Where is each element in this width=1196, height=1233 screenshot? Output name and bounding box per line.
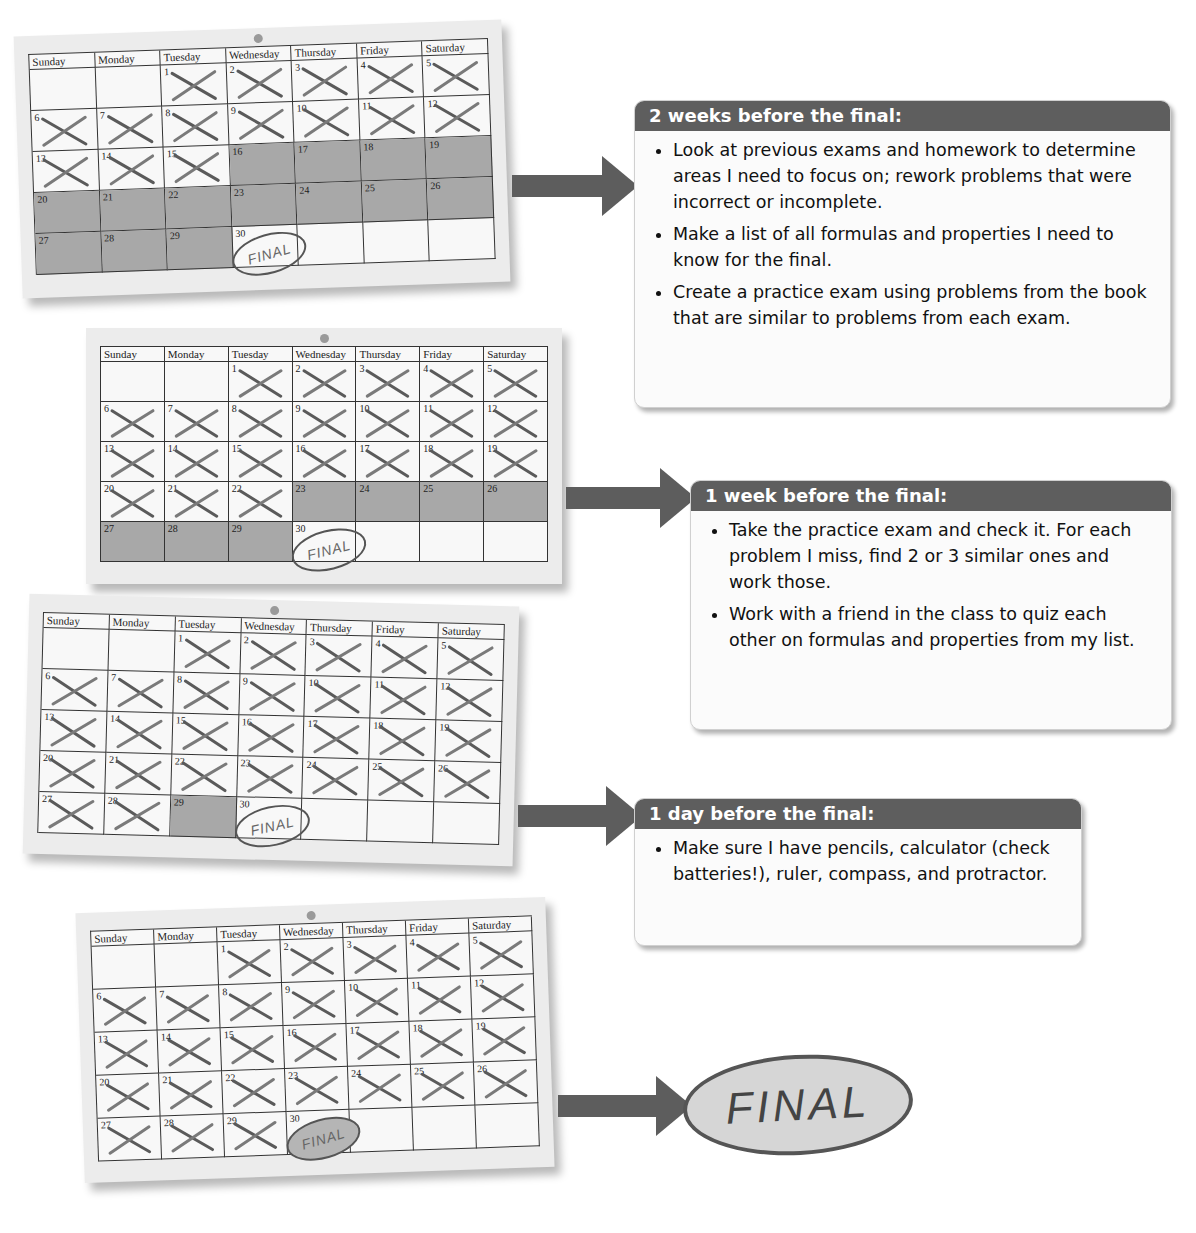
calendar-day: 21 [105, 753, 172, 796]
calendar-day: 25 [368, 760, 435, 803]
cross-out-icon [299, 446, 350, 477]
calendar-day: 2 [240, 633, 307, 676]
weekday-header: Saturday [439, 623, 505, 640]
calendar-day: 26 [484, 482, 548, 522]
cross-out-icon [179, 677, 233, 710]
calendar-day: 2 [293, 362, 357, 402]
day-number: 27 [39, 234, 49, 245]
cross-out-icon [235, 446, 286, 477]
calendar-day: 4 [406, 934, 470, 979]
arrow-right-icon [566, 468, 694, 528]
calendar-day: 5 [438, 638, 505, 681]
calendar-day: 23 [285, 1067, 349, 1112]
calendar-day: 18 [370, 719, 437, 762]
cross-out-icon [479, 1022, 530, 1058]
cross-out-icon [171, 446, 222, 477]
calendar-day: 8 [162, 104, 229, 147]
calendar-day: 18 [409, 1019, 473, 1064]
cross-out-icon [364, 61, 418, 95]
calendar-day: 29 [167, 227, 234, 270]
calendar-day: 29 [170, 795, 237, 838]
calendar-day: 8 [173, 672, 240, 715]
calendar-day: 25 [420, 482, 484, 522]
day-number: 30 [296, 523, 306, 534]
calendar-day: 20 [101, 482, 165, 522]
calendar-day: 3 [343, 936, 407, 981]
calendar-empty-cell [420, 522, 484, 562]
calendar-day: 1 [218, 940, 282, 985]
calendar-empty-cell [43, 628, 110, 671]
calendar-empty-cell [101, 362, 165, 402]
calendar-day: 27 [98, 1116, 162, 1161]
calendar-day: 2 [280, 938, 344, 983]
cross-out-icon [440, 765, 494, 798]
calendar-day: 25 [362, 179, 429, 222]
cross-out-icon [476, 936, 527, 972]
cross-out-icon [426, 366, 477, 397]
cross-out-icon [490, 406, 541, 437]
calendar-day: 17 [295, 141, 362, 184]
calendar-day: 22 [165, 186, 232, 229]
calendar-day: 6 [93, 988, 157, 1033]
pin-icon [270, 606, 279, 615]
cross-out-icon [224, 944, 275, 980]
calendar-day: 7 [156, 985, 220, 1030]
calendar-grid: SundayMondayTuesdayWednesdayThursdayFrid… [100, 346, 548, 562]
calendar-day: 10 [305, 676, 372, 719]
cross-out-icon [107, 446, 158, 477]
cross-out-icon [290, 1028, 341, 1064]
cross-out-icon [39, 154, 93, 188]
calendar-day: 24 [296, 182, 363, 225]
note-title: 1 week before the final: [691, 481, 1171, 511]
calendar-empty-cell [30, 68, 97, 111]
cross-out-icon [101, 1035, 152, 1071]
pin-icon [307, 911, 316, 920]
cross-out-icon [354, 1069, 405, 1105]
weekday-header: Wednesday [241, 618, 307, 635]
calendar-day: 26 [427, 177, 494, 220]
cross-out-icon [47, 714, 101, 747]
calendar-day: 28 [101, 229, 168, 272]
day-number: 27 [104, 523, 114, 534]
calendar-day: 6 [41, 669, 108, 712]
calendar-day: 15 [229, 442, 293, 482]
cross-out-icon [167, 67, 221, 101]
note-list: Make sure I have pencils, calculator (ch… [635, 829, 1081, 903]
cross-out-icon [291, 1071, 342, 1107]
calendar-day: 15 [221, 1026, 285, 1071]
calendar-grid: SundayMondayTuesdayWednesdayThursdayFrid… [37, 612, 505, 845]
calendar-day: 5 [423, 54, 490, 97]
weekday-header: Thursday [356, 347, 420, 362]
calendar-day: 5 [469, 931, 533, 976]
calendar-day: 16 [293, 442, 357, 482]
calendar-empty-cell [412, 1105, 476, 1150]
cross-out-icon [426, 446, 477, 477]
day-number: 25 [365, 182, 375, 193]
weekday-header: Wednesday [293, 347, 357, 362]
calendar-day: 21 [100, 188, 167, 231]
calendar-day: 21 [159, 1071, 223, 1116]
day-number: 30 [239, 798, 249, 809]
cross-out-icon [45, 755, 99, 788]
calendar-day: 24 [356, 482, 420, 522]
calendar-day: 7 [165, 402, 229, 442]
cross-out-icon [414, 981, 465, 1017]
cross-out-icon [376, 723, 430, 756]
cross-out-icon [111, 757, 165, 790]
cross-out-icon [44, 796, 98, 829]
day-number: 29 [232, 523, 242, 534]
final-exam-oval: FINAL [681, 1049, 916, 1161]
calendar-day: 12 [484, 402, 548, 442]
calendar-empty-cell [155, 942, 219, 987]
calendar-empty-cell [433, 802, 500, 845]
calendar-day: 7 [107, 671, 174, 714]
cross-out-icon [362, 446, 413, 477]
calendar-day: 30FINAL [286, 1110, 350, 1155]
arrow-right-icon [518, 786, 642, 846]
cross-out-icon [246, 637, 300, 670]
calendar-day: 17 [304, 717, 371, 760]
calendar-empty-cell [95, 65, 162, 108]
calendar-day: 23 [293, 482, 357, 522]
day-number: 26 [487, 483, 497, 494]
calendar-day: 4 [372, 637, 439, 680]
